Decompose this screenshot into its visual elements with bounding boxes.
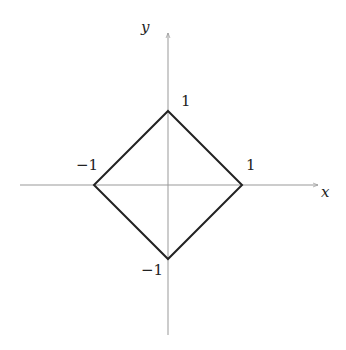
tick-label-x-1: 1 [246,156,256,174]
y-axis-label: y [140,18,150,36]
tick-label-x-neg1: −1 [76,156,98,174]
diagram-canvas: y x 1 1 −1 −1 [0,0,346,350]
tick-label-y-1: 1 [181,92,191,110]
x-axis-label: x [321,183,330,201]
tick-label-y-neg1: −1 [141,261,163,279]
